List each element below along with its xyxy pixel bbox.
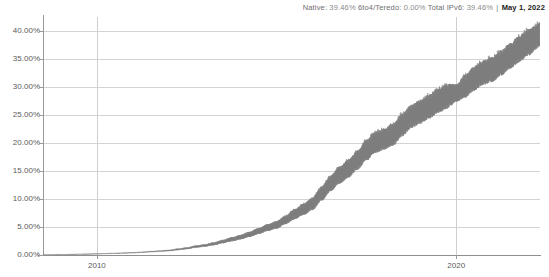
- ipv6-adoption-chart: Native: 39.46% 6to4/Teredo: 0.00% Total …: [0, 0, 549, 277]
- x-axis-tick-label: 2020: [447, 262, 465, 270]
- tunnel-value: 0.00%: [404, 3, 426, 12]
- y-axis-tick-label: 30.00%: [0, 83, 40, 91]
- total-label: Total IPv6:: [428, 3, 465, 12]
- ipv6-series-band: [43, 17, 540, 255]
- y-axis-tick-mark: [39, 115, 43, 116]
- series-band-total-ipv6: [43, 21, 540, 254]
- y-axis-tick-label: 25.00%: [0, 111, 40, 119]
- y-axis-tick-mark: [39, 87, 43, 88]
- y-axis-tick-label: 40.00%: [0, 27, 40, 35]
- tunnel-label: 6to4/Teredo:: [358, 3, 402, 12]
- total-value: 39.46%: [467, 3, 493, 12]
- y-axis-tick-mark: [39, 227, 43, 228]
- y-axis-tick-mark: [39, 59, 43, 60]
- header-separator: |: [495, 3, 499, 12]
- y-axis-tick-label: 20.00%: [0, 139, 40, 147]
- native-value: 39.46%: [329, 3, 355, 12]
- chart-stats-header: Native: 39.46% 6to4/Teredo: 0.00% Total …: [0, 2, 545, 13]
- header-date: May 1, 2022: [502, 3, 545, 12]
- x-axis-tick-mark: [456, 255, 457, 259]
- native-label: Native:: [303, 3, 327, 12]
- y-axis-tick-label: 5.00%: [0, 223, 40, 231]
- y-axis-tick-label: 35.00%: [0, 55, 40, 63]
- y-axis-tick-label: 0.00%: [0, 251, 40, 259]
- x-axis-tick-mark: [97, 255, 98, 259]
- y-axis-tick-label: 15.00%: [0, 167, 40, 175]
- y-axis-tick-mark: [39, 199, 43, 200]
- x-axis-line: [38, 255, 541, 256]
- x-axis-tick-label: 2010: [88, 262, 106, 270]
- y-axis-tick-label: 10.00%: [0, 195, 40, 203]
- y-axis-tick-mark: [39, 171, 43, 172]
- y-axis-tick-mark: [39, 31, 43, 32]
- y-axis-tick-mark: [39, 143, 43, 144]
- y-axis-tick-mark: [39, 255, 43, 256]
